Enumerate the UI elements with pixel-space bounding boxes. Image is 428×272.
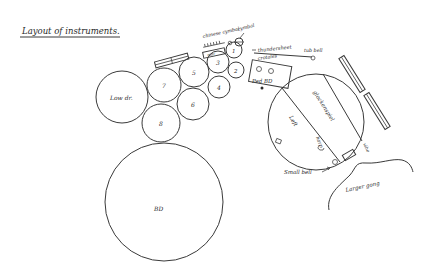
vibe-box: vibe xyxy=(342,142,370,160)
mar-bar xyxy=(154,53,188,68)
svg-text:Larger gong: Larger gong xyxy=(344,180,381,194)
svg-text:vibe: vibe xyxy=(362,142,371,153)
svg-text:chinese cymbal: chinese cymbal xyxy=(202,26,240,40)
right-bar-bottom xyxy=(364,92,390,129)
title-text: Layout of instruments. xyxy=(21,26,120,36)
bass-drum: BD xyxy=(105,143,223,261)
svg-text:Left: Left xyxy=(287,114,300,129)
svg-text:Small bell: Small bell xyxy=(284,169,312,175)
svg-text:1: 1 xyxy=(232,48,236,54)
svg-text:8: 8 xyxy=(159,120,163,127)
chinese-cymbal: chinese cymbal xyxy=(202,26,240,47)
drum-8: 8 xyxy=(142,104,180,142)
glockenspiel-harp-circle: glockenspiel Left harp xyxy=(268,74,364,170)
drum-5: 5 xyxy=(179,57,209,87)
svg-text:tub bell: tub bell xyxy=(304,48,323,53)
crotales-pedbd-box: crotales Ped BD xyxy=(249,53,292,89)
small-bar-box: mar xyxy=(203,48,226,58)
svg-text:cymbal: cymbal xyxy=(237,23,256,33)
svg-text:Low dr.: Low dr. xyxy=(109,94,133,101)
instrument-layout-diagram: Layout of instruments. Low dr. 7 8 5 6 3… xyxy=(0,0,428,272)
svg-text:thundersheet: thundersheet xyxy=(257,43,292,53)
drum-6: 6 xyxy=(177,88,209,120)
svg-text:4: 4 xyxy=(216,84,221,91)
svg-text:7: 7 xyxy=(162,82,166,89)
svg-text:5: 5 xyxy=(192,69,196,76)
drum-4: 4 xyxy=(208,76,230,98)
svg-text:BD: BD xyxy=(153,205,163,212)
svg-text:6: 6 xyxy=(191,101,195,108)
drum-7: 7 xyxy=(147,68,181,102)
svg-text:crotales: crotales xyxy=(257,53,278,61)
large-gong: Larger gong xyxy=(329,160,413,210)
tub-bell: tub bell xyxy=(304,48,323,60)
svg-text:2: 2 xyxy=(233,68,238,74)
svg-text:Ped BD: Ped BD xyxy=(251,78,273,84)
svg-text:harp: harp xyxy=(314,135,325,149)
svg-text:glockenspiel: glockenspiel xyxy=(311,89,336,123)
drum-2: 2 xyxy=(228,62,244,78)
svg-text:3: 3 xyxy=(216,59,220,66)
right-bar-top xyxy=(339,55,365,92)
diagram-title: Layout of instruments. xyxy=(20,26,120,37)
low-drum: Low dr. xyxy=(96,71,148,123)
small-bell: Small bell xyxy=(284,160,338,176)
